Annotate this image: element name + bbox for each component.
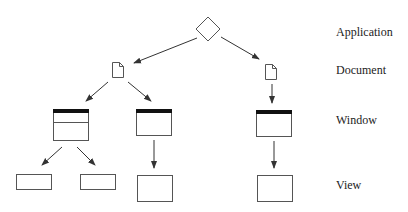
level-label-document: Document xyxy=(336,63,386,78)
view-box-4 xyxy=(258,176,293,202)
window-icon-stacked xyxy=(53,109,89,141)
level-label-view: View xyxy=(336,178,361,193)
document-icon-right xyxy=(266,65,277,80)
arrow-window-to-view-1 xyxy=(42,147,62,165)
window-icon-right xyxy=(256,110,292,137)
window-icon-middle xyxy=(136,109,172,136)
view-box-1 xyxy=(17,175,52,190)
level-label-window: Window xyxy=(336,113,377,128)
application-node-icon xyxy=(196,17,220,41)
document-icon-left xyxy=(113,63,124,78)
view-box-3 xyxy=(138,176,173,202)
arrow-window-to-view-2 xyxy=(77,147,95,165)
arrow-app-to-doc-right xyxy=(221,37,259,59)
arrow-doc-to-window-1 xyxy=(86,82,108,101)
view-box-2 xyxy=(81,175,116,190)
arrow-doc-to-window-2 xyxy=(128,82,151,101)
arrow-app-to-doc-left xyxy=(134,38,197,63)
level-label-application: Application xyxy=(336,25,393,40)
